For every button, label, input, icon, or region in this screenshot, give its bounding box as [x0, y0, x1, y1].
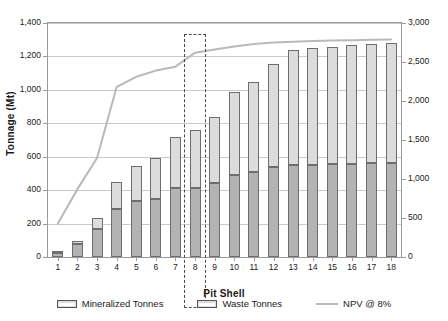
- x-axis-tick-label[interactable]: 4: [107, 262, 127, 272]
- y-axis-left-tick-label: 800: [7, 118, 41, 127]
- x-axis-tick-label[interactable]: 13: [283, 262, 303, 272]
- legend-label: NPV @ 8%: [343, 298, 391, 309]
- y-axis-right-tick-label: 3,000: [408, 18, 442, 27]
- legend-item[interactable]: Mineralized Tonnes: [57, 298, 164, 309]
- x-axis-tick-label[interactable]: 7: [165, 262, 185, 272]
- legend-item[interactable]: NPV @ 8%: [316, 298, 391, 309]
- y-axis-right-tick-mark: [402, 101, 406, 102]
- plot-area: [47, 22, 402, 258]
- x-axis-tick-label[interactable]: 14: [303, 262, 323, 272]
- x-axis-tick-label[interactable]: 12: [264, 262, 284, 272]
- x-axis-tick-label[interactable]: 11: [244, 262, 264, 272]
- x-axis-tick-label[interactable]: 17: [362, 262, 382, 272]
- y-axis-left-tick-label: 600: [7, 152, 41, 161]
- legend-label: Mineralized Tonnes: [82, 298, 164, 309]
- y-axis-right-tick-mark: [402, 257, 406, 258]
- legend-label: Waste Tonnes: [222, 298, 282, 309]
- y-axis-left-tick-label: 0: [7, 252, 41, 261]
- y-axis-right-tick-label: 2,000: [408, 96, 442, 105]
- legend-swatch-marker: [57, 300, 77, 308]
- chart-legend: Mineralized TonnesWaste TonnesNPV @ 8%: [0, 298, 448, 309]
- y-axis-right-tick-label: 1,500: [408, 135, 442, 144]
- y-axis-right-tick-mark: [402, 179, 406, 180]
- x-axis-tick-label[interactable]: 15: [322, 262, 342, 272]
- y-axis-left-tick-label: 1,200: [7, 51, 41, 60]
- y-axis-left-tick-label: 400: [7, 185, 41, 194]
- x-axis-tick-label[interactable]: 3: [87, 262, 107, 272]
- npv-line-series: [48, 23, 401, 257]
- y-axis-right-tick-label: 2,500: [408, 57, 442, 66]
- y-axis-right-tick-label: 0: [408, 252, 442, 261]
- x-axis-tick-label[interactable]: 1: [48, 262, 68, 272]
- y-axis-left-tick-label: 200: [7, 219, 41, 228]
- x-axis-tick-label[interactable]: 6: [146, 262, 166, 272]
- legend-line-marker: [316, 303, 338, 305]
- pit-shell-tonnage-npv-chart: Tonnage (Mt) NPV (M$) Pit Shell 02004006…: [0, 0, 448, 321]
- y-axis-left-tick-label: 1,400: [7, 18, 41, 27]
- y-axis-right-tick-label: 500: [408, 213, 442, 222]
- x-axis-tick-label[interactable]: 18: [381, 262, 401, 272]
- x-axis-tick-label[interactable]: 9: [205, 262, 225, 272]
- npv-line-path: [58, 39, 391, 223]
- x-axis-tick-label[interactable]: 5: [126, 262, 146, 272]
- y-axis-right-tick-mark: [402, 218, 406, 219]
- x-axis-tick-label[interactable]: 2: [67, 262, 87, 272]
- legend-item[interactable]: Waste Tonnes: [197, 298, 282, 309]
- y-axis-right-tick-label: 1,000: [408, 174, 442, 183]
- y-axis-left-tick-label: 1,000: [7, 85, 41, 94]
- x-axis-tick-label[interactable]: 10: [224, 262, 244, 272]
- y-axis-right-tick-mark: [402, 62, 406, 63]
- selected-pit-shell-highlight[interactable]: [184, 34, 206, 308]
- y-axis-right-tick-mark: [402, 140, 406, 141]
- y-axis-right-tick-mark: [402, 23, 406, 24]
- legend-swatch-marker: [197, 300, 217, 308]
- x-axis-tick-label[interactable]: 16: [342, 262, 362, 272]
